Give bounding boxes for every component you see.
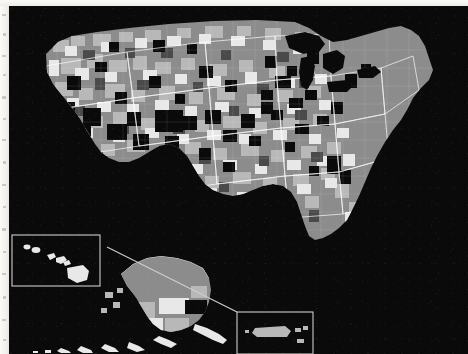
scan-speck [3, 251, 6, 253]
map-plate [9, 6, 468, 354]
scan-speck [2, 139, 6, 141]
alaska-islands [101, 288, 123, 313]
scan-speck [3, 339, 6, 341]
hawaii-islands [24, 245, 90, 283]
scan-speck [2, 55, 6, 57]
aleutian-chain [33, 324, 227, 353]
scan-speck [2, 96, 6, 99]
scan-speck [2, 273, 6, 275]
map-figure [0, 0, 468, 354]
scan-speck [3, 74, 6, 76]
paper-top-margin [0, 0, 468, 6]
conus-region [39, 16, 439, 246]
scan-speck [2, 14, 6, 16]
scan-speck [2, 184, 6, 186]
paper-left-margin [0, 0, 9, 354]
scan-speck [2, 228, 6, 231]
scan-speck [2, 319, 6, 321]
scan-speck [3, 161, 6, 164]
hawaii-inset [12, 235, 100, 286]
scan-speck [3, 206, 6, 208]
scan-speck [3, 118, 6, 120]
scan-speck [3, 296, 6, 299]
choropleth-svg [9, 6, 468, 354]
puerto-rico-islands [245, 326, 308, 343]
scan-speck [3, 33, 6, 36]
